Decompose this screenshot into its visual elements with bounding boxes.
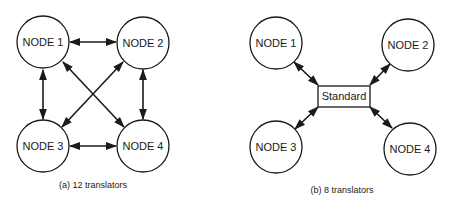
node-b-4: NODE 4 <box>384 123 436 175</box>
edge-b-node4-standard <box>370 107 392 128</box>
node-label: NODE 4 <box>123 140 164 152</box>
node-b-2: NODE 2 <box>382 19 434 71</box>
node-label: NODE 3 <box>23 140 64 152</box>
caption-a: (a) 12 translators <box>59 180 128 190</box>
edge-b-node2-standard <box>370 64 390 85</box>
caption-b: (b) 8 translators <box>310 185 374 195</box>
node-a-2: NODE 2 <box>117 17 169 69</box>
node-label: NODE 2 <box>123 37 164 49</box>
node-label: NODE 4 <box>390 143 431 155</box>
node-a-1: NODE 1 <box>17 16 69 68</box>
node-label: NODE 2 <box>388 39 429 51</box>
node-label: NODE 1 <box>256 37 297 49</box>
edge-b-node3-standard <box>295 107 318 129</box>
translator-diagrams: NODE 1 NODE 2 NODE 3 NODE 4 (a) 12 trans… <box>0 0 452 202</box>
diagram-a-full-mesh: NODE 1 NODE 2 NODE 3 NODE 4 (a) 12 trans… <box>17 16 169 190</box>
edge-b-node1-standard <box>294 62 318 85</box>
standard-box: Standard <box>318 86 370 107</box>
node-a-3: NODE 3 <box>17 120 69 172</box>
node-label: NODE 3 <box>256 141 297 153</box>
diagram-b-hub: Standard NODE 1 NODE 2 NODE 3 NODE 4 (b)… <box>250 17 436 195</box>
standard-label: Standard <box>322 90 367 102</box>
node-a-4: NODE 4 <box>117 120 169 172</box>
node-b-1: NODE 1 <box>250 17 302 69</box>
node-b-3: NODE 3 <box>250 121 302 173</box>
node-label: NODE 1 <box>23 36 64 48</box>
